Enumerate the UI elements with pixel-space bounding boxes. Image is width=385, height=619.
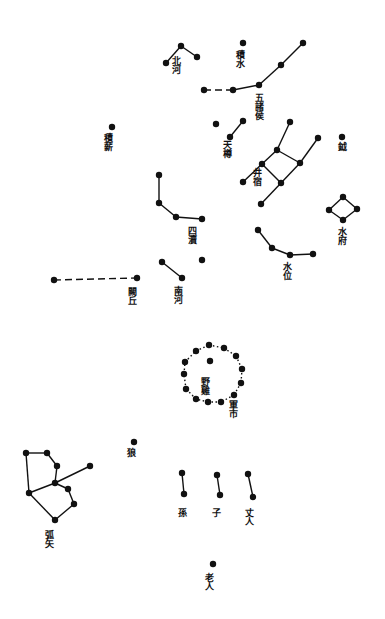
star-dot xyxy=(178,43,184,49)
asterism-line xyxy=(26,453,29,493)
star-dot xyxy=(182,359,188,365)
star-dot xyxy=(315,135,321,141)
star-dot xyxy=(71,501,77,507)
star-dot xyxy=(199,257,205,263)
asterism-wuzhuhou xyxy=(201,40,306,93)
asterism-label-hushi: 弧矢 xyxy=(44,530,54,548)
asterism-hushi xyxy=(23,450,93,523)
star-dot xyxy=(65,486,71,492)
asterism-sidu xyxy=(156,172,205,222)
asterism-line xyxy=(54,278,137,280)
asterism-label-wuzhuhou: 五諸侯 xyxy=(254,93,264,120)
asterism-beihe xyxy=(163,43,200,66)
asterism-line xyxy=(277,122,290,150)
star-dot xyxy=(134,275,140,281)
asterism-label-sun: 孫 xyxy=(177,508,187,517)
star-dot xyxy=(213,121,219,127)
star-dot xyxy=(54,463,60,469)
star-dot xyxy=(231,392,237,398)
asterism-label-yeji: 野雞 xyxy=(200,377,210,395)
star-dot xyxy=(26,490,32,496)
star-dot xyxy=(340,194,346,200)
asterism-line xyxy=(233,85,259,90)
asterism-label-zi: 子 xyxy=(211,508,221,517)
star-dot xyxy=(339,134,345,140)
asterism-nanhe xyxy=(159,257,205,281)
star-dot xyxy=(210,561,216,567)
star-dot xyxy=(256,82,262,88)
asterism-line xyxy=(281,43,303,65)
asterism-shuiwei xyxy=(255,227,316,258)
asterism-label-jishui: 積水 xyxy=(235,50,245,68)
asterism-junshi xyxy=(181,342,245,405)
star-dot xyxy=(240,179,246,185)
asterism-label-junshi: 軍市 xyxy=(228,400,238,418)
star-dot xyxy=(287,119,293,125)
star-dot xyxy=(278,62,284,68)
asterism-sun xyxy=(179,470,187,497)
asterism-line xyxy=(281,163,300,183)
asterism-label-shuifu: 水府 xyxy=(337,227,347,245)
star-dot xyxy=(269,245,275,251)
asterism-line xyxy=(55,466,90,483)
star-dot xyxy=(297,160,303,166)
star-dot xyxy=(183,386,189,392)
star-dot xyxy=(193,396,199,402)
star-dot xyxy=(233,353,239,359)
asterism-label-lang: 狼 xyxy=(126,448,136,457)
asterism-lang xyxy=(131,439,137,445)
asterism-jixin xyxy=(109,124,115,130)
asterism-zi xyxy=(214,472,223,498)
star-dot xyxy=(240,118,246,124)
asterism-line xyxy=(300,138,318,163)
star-dot xyxy=(52,517,58,523)
star-dot xyxy=(199,216,205,222)
star-dot xyxy=(354,206,360,212)
star-dot xyxy=(179,275,185,281)
star-dot xyxy=(240,40,246,46)
asterism-jing xyxy=(240,119,321,207)
star-dot xyxy=(201,87,207,93)
asterism-laoren xyxy=(210,561,216,567)
star-dot xyxy=(221,345,227,351)
asterism-queqiu xyxy=(51,275,140,283)
asterism-label-jixin: 積薪 xyxy=(103,133,113,151)
asterism-line xyxy=(162,262,182,278)
asterism-label-queqiu: 闕丘 xyxy=(127,287,137,305)
asterism-line xyxy=(259,65,281,85)
star-dot xyxy=(193,348,199,354)
asterism-line xyxy=(277,150,300,163)
asterism-yeji xyxy=(207,358,213,364)
star-chart-canvas xyxy=(0,0,385,619)
star-dot xyxy=(52,480,58,486)
asterism-tianzun xyxy=(213,118,246,140)
asterism-line xyxy=(261,183,281,204)
asterism-label-nanhe: 南河 xyxy=(173,286,183,304)
star-dot xyxy=(217,492,223,498)
star-dot xyxy=(287,252,293,258)
asterism-line xyxy=(29,493,55,520)
asterism-line xyxy=(55,504,74,520)
star-dot xyxy=(156,200,162,206)
star-dot xyxy=(218,399,224,405)
star-dot xyxy=(159,259,165,265)
star-dot xyxy=(250,494,256,500)
star-dot xyxy=(194,54,200,60)
star-dot xyxy=(310,251,316,257)
star-dot xyxy=(326,207,332,213)
star-dot xyxy=(255,227,261,233)
star-dot xyxy=(156,172,162,178)
asterism-label-shuiwei: 水位 xyxy=(282,262,292,280)
star-dot xyxy=(300,40,306,46)
star-dot xyxy=(239,366,245,372)
asterism-line xyxy=(159,203,176,217)
star-dot xyxy=(205,399,211,405)
asterism-shuifu xyxy=(326,194,360,223)
star-dot xyxy=(179,470,185,476)
asterism-label-sidu: 四瀆 xyxy=(187,226,197,244)
asterism-line xyxy=(248,474,253,497)
star-dot xyxy=(274,147,280,153)
star-dot xyxy=(278,180,284,186)
asterism-label-zhangren: 丈人 xyxy=(244,508,254,526)
asterism-label-jing: 井宿 xyxy=(252,168,262,186)
